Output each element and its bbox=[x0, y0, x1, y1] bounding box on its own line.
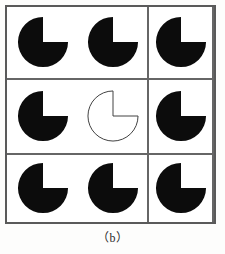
pacman-shape bbox=[87, 90, 137, 140]
pacman-shape bbox=[17, 90, 67, 140]
pacman-icon-middle-center bbox=[87, 90, 139, 142]
pacman-svg bbox=[155, 90, 207, 142]
pacman-svg bbox=[17, 16, 69, 68]
pacman-icon-top-center bbox=[87, 16, 139, 68]
pacman-icon-bottom-left bbox=[17, 162, 69, 214]
pacman-shape bbox=[87, 16, 137, 66]
figure-root: （b） bbox=[0, 0, 225, 254]
pacman-grid bbox=[5, 5, 216, 224]
pacman-svg bbox=[155, 162, 207, 214]
pacman-svg bbox=[87, 16, 139, 68]
pacman-shape bbox=[155, 90, 205, 140]
pacman-icon-bottom-center bbox=[87, 162, 139, 214]
grid-cell-top-center bbox=[78, 7, 149, 80]
grid-cell-top-left bbox=[7, 7, 78, 80]
pacman-shape bbox=[17, 16, 67, 66]
pacman-icon-top-right bbox=[155, 16, 207, 68]
pacman-icon-bottom-right bbox=[155, 162, 207, 214]
pacman-svg bbox=[17, 162, 69, 214]
pacman-shape bbox=[17, 162, 67, 212]
grid-cell-middle-left bbox=[7, 80, 78, 155]
pacman-shape bbox=[155, 16, 205, 66]
grid-cell-bottom-left bbox=[7, 155, 78, 222]
pacman-icon-middle-right bbox=[155, 90, 207, 142]
pacman-svg bbox=[87, 162, 139, 214]
pacman-svg bbox=[155, 16, 207, 68]
pacman-icon-top-left bbox=[17, 16, 69, 68]
pacman-shape bbox=[155, 162, 205, 212]
pacman-shape bbox=[87, 162, 137, 212]
pacman-icon-middle-left bbox=[17, 90, 69, 142]
grid-cell-top-right bbox=[149, 7, 214, 80]
grid-cell-bottom-right bbox=[149, 155, 214, 222]
grid-cell-middle-center bbox=[78, 80, 149, 155]
grid-cell-middle-right bbox=[149, 80, 214, 155]
figure-caption: （b） bbox=[0, 231, 225, 245]
pacman-svg bbox=[87, 90, 139, 142]
pacman-svg bbox=[17, 90, 69, 142]
grid-cell-bottom-center bbox=[78, 155, 149, 222]
